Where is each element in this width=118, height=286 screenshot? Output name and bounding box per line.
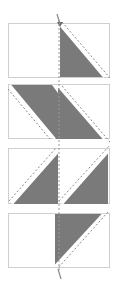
bottom-pin-icon xyxy=(58,269,61,279)
quilt-diagram xyxy=(0,0,118,286)
